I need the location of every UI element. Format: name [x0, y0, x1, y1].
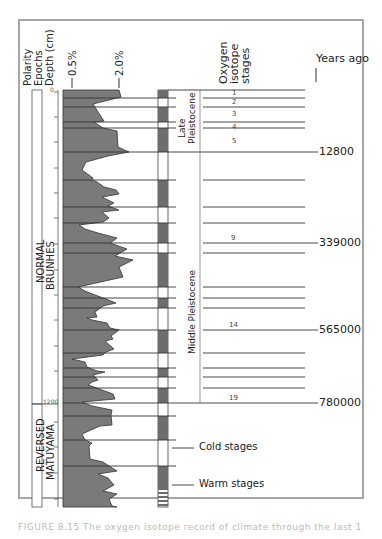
isotope-curve [63, 90, 133, 507]
year-339000: 339000 [319, 236, 361, 249]
stage-5: 5 [232, 137, 236, 145]
isotope-stage-lines [203, 98, 318, 388]
year-780000: 780000 [319, 396, 361, 409]
polarity-brunhes: BRUNHES [45, 241, 56, 290]
stage-3: 3 [232, 110, 236, 118]
polarity-matuyama: MATUYAMA [45, 424, 56, 480]
oxygen-header-3: stages [240, 48, 251, 84]
stage-9: 9 [231, 234, 235, 242]
legend-cold: Cold stages [199, 441, 257, 452]
epoch-late-pleistocene: Pleistocene [187, 93, 198, 144]
depth-tick-0: 0 [50, 86, 54, 93]
figure-caption: FIGURE 8.15 The oxygen isotope record of… [18, 522, 364, 536]
stage-2: 2 [232, 98, 236, 106]
year-565000: 565000 [319, 323, 361, 336]
years-ago-header: Years ago [316, 52, 369, 65]
legend-warm: Warm stages [199, 478, 264, 489]
year-12800: 12800 [319, 145, 354, 158]
depth-tick-1200: 1200 [43, 398, 58, 405]
scale-high-label: 2.0% [114, 51, 125, 76]
stage-4: 4 [232, 123, 236, 131]
scale-low-label: 0.5% [67, 51, 78, 76]
epoch-middle-pleistocene: Middle Pleistocene [187, 270, 198, 354]
stage-14: 14 [229, 321, 238, 329]
epochs-header: Epochs [33, 50, 44, 86]
polarity-header: Polarity [22, 49, 33, 86]
stage-19: 19 [229, 394, 238, 402]
stage-column [158, 90, 168, 507]
depth-header: Depth (cm) [44, 29, 55, 86]
stage-1: 1 [232, 89, 236, 97]
